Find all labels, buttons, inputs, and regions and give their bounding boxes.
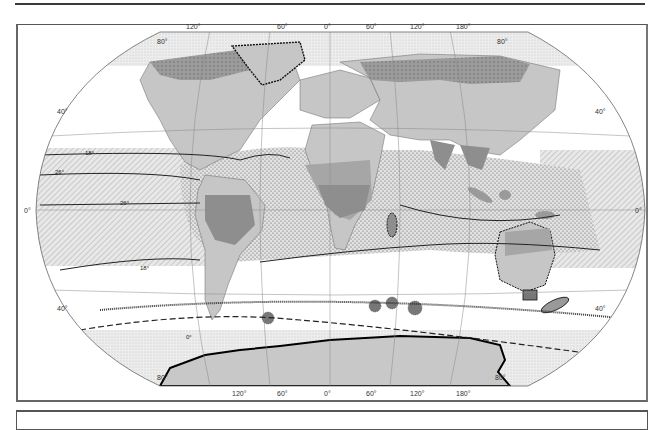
label-left-lat-40n: 40° xyxy=(57,108,68,115)
isotherm-label-26-south: 26° xyxy=(120,200,130,206)
label-left-lat-40s: 40° xyxy=(57,305,68,312)
label-bottom-lon-180: 180° xyxy=(456,390,471,397)
label-bottom-lon-120e: 120° xyxy=(410,390,425,397)
label-bottom-lon-60w: 60° xyxy=(277,390,288,397)
label-left-lat-0: 0° xyxy=(24,207,31,214)
label-top-lon-120w: 120° xyxy=(186,23,201,30)
isotherm-label-18-south: 18° xyxy=(140,265,150,271)
label-left-lat-80s: 80° xyxy=(157,374,168,381)
label-bottom-lon-120w: 120° xyxy=(232,390,247,397)
label-bottom-lon-60e: 60° xyxy=(366,390,377,397)
label-right-lat-40n: 40° xyxy=(595,108,606,115)
label-bottom-lon-0: 0° xyxy=(324,390,331,397)
label-top-lon-120e: 120° xyxy=(410,23,425,30)
isotherm-label-26-north: 26° xyxy=(55,169,65,175)
label-top-lon-180: 180° xyxy=(456,23,471,30)
label-top-lon-0: 0° xyxy=(324,23,331,30)
isotherm-label-0-south: 0° xyxy=(186,334,192,340)
label-right-lat-40s: 40° xyxy=(595,305,606,312)
label-top-lon-60e: 60° xyxy=(366,23,377,30)
label-right-lat-0: 0° xyxy=(635,207,642,214)
label-top-lon-60w: 60° xyxy=(277,23,288,30)
label-right-lat-80n: 80° xyxy=(497,38,508,45)
label-right-lat-80s: 80° xyxy=(495,374,506,381)
isotherm-label-18-north: 18° xyxy=(85,150,95,156)
label-left-lat-80n: 80° xyxy=(157,38,168,45)
